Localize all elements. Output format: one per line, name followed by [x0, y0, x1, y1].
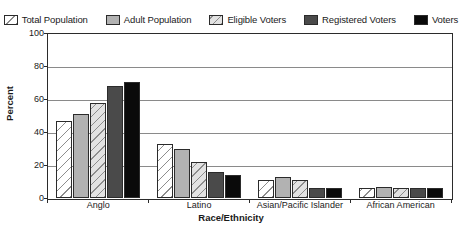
- y-tick-label: 40: [18, 128, 44, 137]
- x-tick-mark: [350, 199, 351, 203]
- y-tick-label: 80: [18, 62, 44, 71]
- bar[interactable]: [174, 149, 190, 198]
- x-axis-title: Race/Ethnicity: [0, 212, 462, 223]
- bar[interactable]: [275, 177, 291, 198]
- y-axis-ticks: 100806040200: [14, 0, 44, 230]
- bar[interactable]: [73, 114, 89, 198]
- bar-group: [350, 34, 451, 198]
- legend-item-label: Registered Voters: [322, 15, 396, 25]
- chart-legend: Total PopulationAdult PopulationEligible…: [0, 12, 462, 28]
- legend-item[interactable]: Adult Population: [106, 15, 192, 25]
- bar[interactable]: [258, 180, 274, 198]
- y-tick-label: 100: [18, 29, 44, 38]
- x-tick-mark: [148, 199, 149, 203]
- y-tick-label: 60: [18, 95, 44, 104]
- bar[interactable]: [124, 82, 140, 198]
- bar[interactable]: [393, 188, 409, 198]
- legend-swatch-icon: [304, 15, 318, 25]
- bar[interactable]: [410, 188, 426, 198]
- x-tick-mark: [47, 199, 48, 203]
- bar-group: [149, 34, 250, 198]
- y-tick-mark: [44, 33, 48, 34]
- y-tick-mark: [44, 66, 48, 67]
- bar-group: [250, 34, 351, 198]
- legend-item[interactable]: Eligible Voters: [209, 15, 286, 25]
- bar[interactable]: [427, 188, 443, 198]
- legend-item[interactable]: Registered Voters: [304, 15, 396, 25]
- legend-swatch-icon: [209, 15, 223, 25]
- legend-swatch-icon: [414, 15, 428, 25]
- y-tick-mark: [44, 99, 48, 100]
- legend-swatch-icon: [106, 15, 120, 25]
- bar-groups: [48, 34, 451, 198]
- bar[interactable]: [309, 188, 325, 198]
- legend-item-label: Eligible Voters: [227, 15, 286, 25]
- bar[interactable]: [90, 103, 106, 198]
- y-axis-title: Percent: [4, 74, 15, 134]
- cropped-title-sliver: [0, 0, 462, 7]
- bar-group: [48, 34, 149, 198]
- y-tick-label: 0: [18, 194, 44, 203]
- bar[interactable]: [292, 180, 308, 198]
- x-tick-mark: [451, 199, 452, 203]
- legend-item-label: Voters: [432, 15, 458, 25]
- bar[interactable]: [376, 187, 392, 198]
- bar[interactable]: [225, 175, 241, 198]
- y-tick-mark: [44, 132, 48, 133]
- bar[interactable]: [191, 162, 207, 198]
- bar[interactable]: [359, 188, 375, 198]
- legend-item[interactable]: Voters: [414, 15, 458, 25]
- bar[interactable]: [56, 121, 72, 198]
- bar[interactable]: [157, 144, 173, 198]
- legend-item-label: Adult Population: [124, 15, 192, 25]
- bar-chart-figure: Total PopulationAdult PopulationEligible…: [0, 0, 462, 230]
- x-tick-mark: [249, 199, 250, 203]
- y-tick-mark: [44, 165, 48, 166]
- bar[interactable]: [326, 188, 342, 198]
- bar[interactable]: [107, 86, 123, 198]
- bar[interactable]: [208, 172, 224, 198]
- y-tick-label: 20: [18, 161, 44, 170]
